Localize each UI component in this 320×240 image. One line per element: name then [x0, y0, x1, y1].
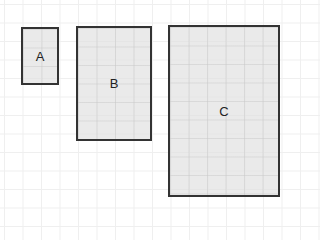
- box-b: B: [76, 26, 152, 141]
- box-c-label: C: [219, 104, 228, 119]
- box-a-label: A: [36, 49, 45, 64]
- box-c: C: [168, 25, 280, 197]
- box-b-label: B: [110, 76, 119, 91]
- box-a: A: [21, 27, 59, 85]
